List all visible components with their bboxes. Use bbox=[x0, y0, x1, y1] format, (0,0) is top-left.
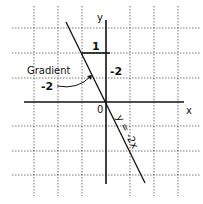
gradient-title: Gradient bbox=[27, 65, 71, 76]
run-label: 1 bbox=[92, 40, 100, 53]
graph: y x 0 1 -2 Gradient -2 y = -2x bbox=[0, 0, 203, 204]
origin-label: 0 bbox=[97, 104, 103, 115]
rise-label: -2 bbox=[110, 65, 122, 78]
gradient-value: -2 bbox=[41, 80, 53, 93]
equation-label: y = -2x bbox=[114, 113, 140, 151]
gradient-arrow bbox=[57, 76, 91, 87]
x-axis-label: x bbox=[186, 105, 192, 116]
y-axis-label: y bbox=[97, 12, 103, 23]
